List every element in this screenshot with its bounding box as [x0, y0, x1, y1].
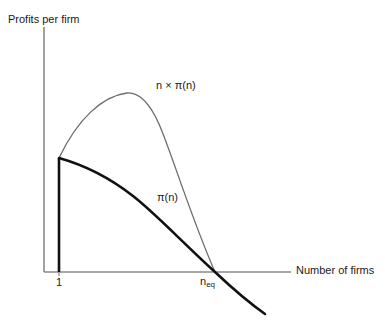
total-profits-curve	[59, 93, 215, 272]
y-axis-label: Profits per firm	[8, 14, 80, 25]
x-tick-label-one: 1	[56, 277, 62, 288]
profits-per-firm-chart: Profits per firm Number of firms n × π(n…	[0, 0, 385, 325]
equilibrium-subscript: eq	[206, 280, 215, 289]
x-axis-label: Number of firms	[296, 265, 374, 276]
profit-per-firm-curve	[59, 158, 265, 314]
total-profits-curve-label: n × π(n)	[156, 80, 196, 91]
profit-per-firm-curve-label: π(n)	[157, 192, 178, 203]
x-tick-label-equilibrium: neq	[200, 276, 215, 287]
